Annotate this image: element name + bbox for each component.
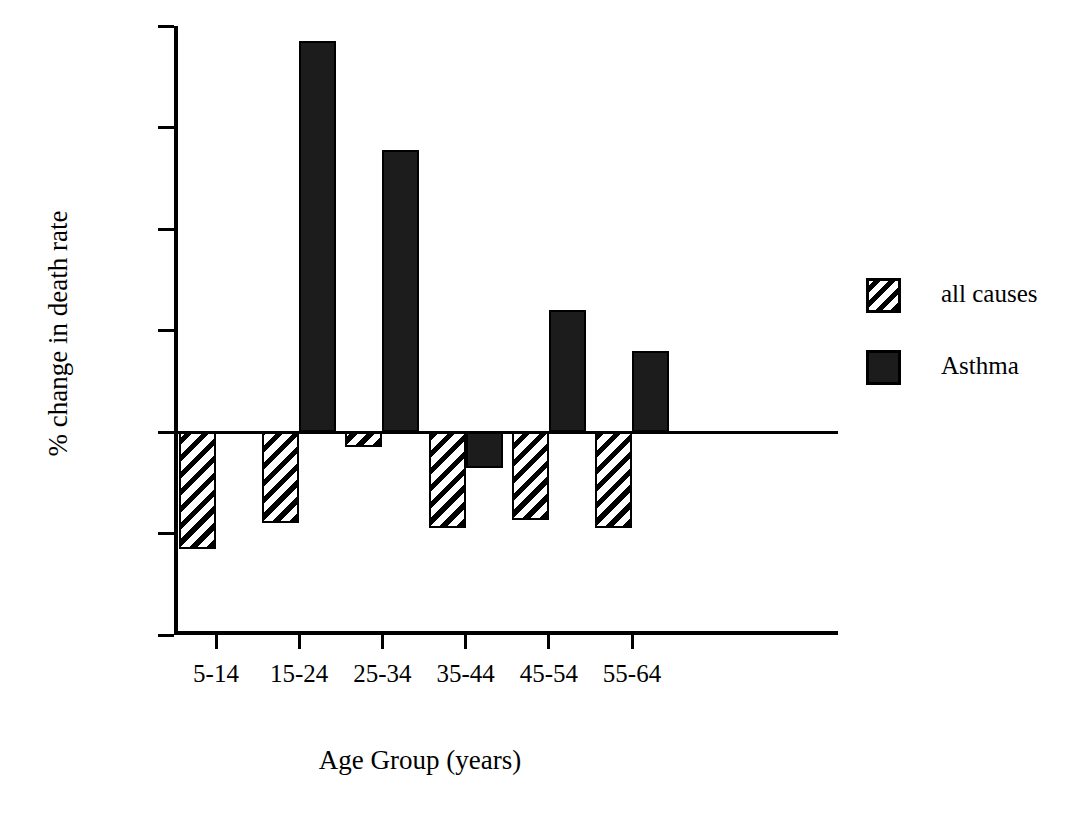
x-tick [298,635,301,649]
y-tick [158,228,174,231]
bar-5-14-all-causes [179,432,216,549]
bar-25-34-all-causes [345,432,382,447]
legend-item[interactable]: all causes [866,278,1066,350]
bar-35-44-all-causes [429,432,466,528]
bar-55-64-Asthma [632,351,669,432]
y-axis-line [174,26,178,635]
y-tick [158,25,174,28]
x-tick-label: 55-64 [603,660,661,688]
x-tick [381,635,384,649]
x-tick-label: 35-44 [436,660,494,688]
y-tick [158,126,174,129]
bar-35-44-Asthma [466,432,503,468]
x-tick [215,635,218,649]
chart-legend: all causesAsthma [866,278,1066,422]
y-tick [158,431,174,434]
x-tick-label: 15-24 [270,660,328,688]
legend-item[interactable]: Asthma [866,350,1066,422]
legend-label: Asthma [941,352,1019,380]
bar-15-24-Asthma [299,41,336,432]
bar-55-64-all-causes [595,432,632,528]
bar-15-24-all-causes [262,432,299,523]
x-tick [464,635,467,649]
x-tick [631,635,634,649]
x-axis-title: Age Group (years) [170,745,670,776]
y-axis-title: % change in death rate [43,104,74,564]
chart-canvas: % change in death rate Age Group (years)… [0,0,1077,816]
bar-45-54-Asthma [549,310,586,432]
y-tick [158,532,174,535]
y-tick [158,329,174,332]
x-tick-label: 45-54 [520,660,578,688]
y-tick [158,634,174,637]
bar-45-54-all-causes [512,432,549,520]
plot-area: -20-10010203040 5-1415-2425-3435-4445-54… [178,26,838,635]
x-tick-label: 5-14 [193,660,239,688]
x-tick [547,635,550,649]
legend-swatch-asthma [866,350,901,385]
x-tick-label: 25-34 [353,660,411,688]
legend-swatch-all-causes [866,278,901,313]
legend-label: all causes [941,280,1037,308]
x-axis-line [174,631,838,635]
bar-25-34-Asthma [382,150,419,432]
